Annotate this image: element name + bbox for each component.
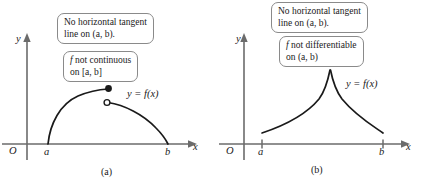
x-axis-label-a: x	[193, 141, 198, 152]
callout-line-1: No horizontal tangent	[64, 17, 147, 29]
y-axis-label-b: y	[236, 33, 241, 44]
y-axis-b	[240, 33, 247, 160]
callout-no-horizontal-tangent-a: No horizontal tangent line on (a, b).	[57, 13, 154, 44]
panel-caption-b: (b)	[311, 164, 323, 175]
y-axis-label-a: y	[16, 33, 21, 44]
tick-label-a-b: a	[258, 146, 263, 157]
y-axis-a	[23, 33, 30, 160]
tick-label-b-b: b	[379, 146, 384, 157]
callout-line-2: on (a, b)	[286, 52, 357, 64]
curve-right-a	[108, 103, 168, 145]
callout-not-differentiable-b: f not differentiable on (a, b)	[279, 36, 364, 67]
callout-line-2: on [a, b]	[70, 67, 131, 79]
origin-label-b: O	[226, 145, 234, 156]
callout-line-1-rest: not differentiable	[289, 40, 357, 50]
callout-line-2: line on (a, b).	[278, 18, 361, 30]
tick-label-b-a: b	[165, 146, 170, 157]
callout-line-2: line on (a, b).	[64, 29, 147, 41]
curve-left-b	[262, 70, 330, 133]
callout-line-1-rest: not continuous	[73, 55, 132, 65]
figure-container: No horizontal tangent line on (a, b). f …	[0, 0, 427, 184]
tick-label-a-a: a	[44, 146, 49, 157]
curve-left-a	[48, 89, 108, 144]
callout-no-horizontal-tangent-b: No horizontal tangent line on (a, b).	[271, 2, 368, 33]
callout-line-1: f not continuous	[70, 55, 131, 67]
panel-a: No horizontal tangent line on (a, b). f …	[0, 0, 214, 184]
panel-b: No horizontal tangent line on (a, b). f …	[213, 0, 427, 184]
open-circle-a	[104, 100, 110, 106]
curve-label-b: y = f(x)	[346, 78, 378, 89]
panel-caption-a: (a)	[101, 166, 112, 177]
callout-not-continuous-a: f not continuous on [a, b]	[63, 51, 138, 82]
x-axis-label-b: x	[406, 141, 411, 152]
closed-dot-a	[105, 85, 112, 92]
origin-label-a: O	[9, 145, 17, 156]
callout-line-1: No horizontal tangent	[278, 6, 361, 18]
curve-label-a: y = f(x)	[127, 88, 159, 99]
callout-line-1: f not differentiable	[286, 40, 357, 52]
